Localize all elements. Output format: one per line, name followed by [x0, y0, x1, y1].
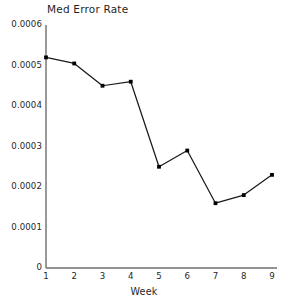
- data-point-week-7: [214, 201, 218, 205]
- x-tick-label-2: 2: [64, 271, 84, 281]
- x-tick-label-1: 1: [36, 271, 56, 281]
- x-tick-label-5: 5: [149, 271, 169, 281]
- x-axis-title: Week: [0, 286, 288, 297]
- y-tick-label-0.0006: 0.0006: [0, 19, 42, 29]
- data-point-week-3: [101, 84, 105, 88]
- x-tick-label-8: 8: [234, 271, 254, 281]
- data-point-week-4: [129, 80, 133, 84]
- data-point-week-9: [270, 173, 274, 177]
- series-markers: [44, 56, 274, 206]
- x-tick-label-4: 4: [121, 271, 141, 281]
- chart-container: Med Error Rate 00.00010.00020.00030.0004…: [0, 0, 288, 305]
- y-tick-label-0.0004: 0.0004: [0, 100, 42, 110]
- y-tick-label-0.0005: 0.0005: [0, 60, 42, 70]
- data-point-week-6: [185, 149, 189, 153]
- data-point-week-2: [72, 62, 76, 66]
- data-point-week-1: [44, 56, 48, 60]
- x-tick-label-3: 3: [93, 271, 113, 281]
- series-line-med-error-rate: [46, 57, 272, 203]
- y-tick-label-0.0003: 0.0003: [0, 141, 42, 151]
- y-tick-label-0.0002: 0.0002: [0, 181, 42, 191]
- data-point-week-5: [157, 165, 161, 169]
- y-tick-label-0.0001: 0.0001: [0, 222, 42, 232]
- x-tick-label-9: 9: [262, 271, 282, 281]
- chart-plot-area: [0, 0, 288, 305]
- data-point-week-8: [242, 193, 246, 197]
- x-tick-label-7: 7: [206, 271, 226, 281]
- x-tick-label-6: 6: [177, 271, 197, 281]
